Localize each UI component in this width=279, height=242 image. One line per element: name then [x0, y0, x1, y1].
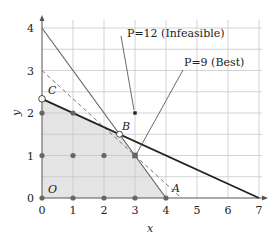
svg-text:7: 7 [256, 204, 263, 217]
svg-text:6: 6 [225, 204, 232, 217]
x-axis-arrow-icon [262, 196, 268, 201]
x-tick-labels: 0 1 2 3 4 5 6 7 [39, 204, 263, 217]
y-axis-arrow-icon [40, 15, 45, 21]
svg-text:5: 5 [194, 204, 201, 217]
vertex-label-a: A [171, 182, 180, 195]
svg-text:3: 3 [27, 65, 34, 78]
svg-text:1: 1 [27, 150, 34, 163]
svg-text:4: 4 [163, 204, 170, 217]
svg-text:0: 0 [39, 204, 46, 217]
svg-text:0: 0 [27, 192, 34, 205]
annotation-best: P=9 (Best) [184, 56, 244, 69]
x-axis-label: x [147, 222, 154, 235]
vertex-label-c: C [48, 84, 57, 97]
svg-text:1: 1 [70, 204, 77, 217]
lp-chart: 0 1 2 3 4 5 6 7 0 1 2 3 4 x y O A B C P=… [0, 0, 279, 242]
y-tick-labels: 0 1 2 3 4 [27, 22, 34, 205]
annotation-infeasible: P=12 (Infeasible) [127, 27, 225, 40]
vertex-label-b: B [121, 120, 130, 133]
vertex-label-o: O [48, 183, 57, 196]
y-axis-label: y [10, 109, 23, 117]
svg-text:2: 2 [27, 107, 34, 120]
svg-text:3: 3 [132, 204, 139, 217]
annotation-leaders [121, 36, 183, 153]
svg-text:4: 4 [27, 22, 34, 35]
svg-text:2: 2 [101, 204, 108, 217]
